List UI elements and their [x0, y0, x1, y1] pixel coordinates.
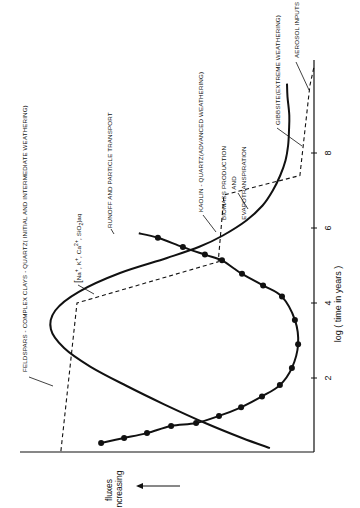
annotation-biomass-line2: AND — [230, 176, 237, 190]
flux-direction-arrow-icon — [136, 483, 143, 489]
data-point-runoff-and-particle-transport — [279, 294, 285, 300]
flux-axis-title: fluxes increasing — [104, 470, 180, 508]
annotation-solutes-close: ]aq — [75, 213, 82, 222]
data-point-runoff-and-particle-transport — [219, 257, 225, 263]
data-point-runoff-and-particle-transport — [289, 365, 295, 371]
annotation-solutes: [Na+, K+, Ca2+, SiO2]aq — [73, 213, 84, 283]
annotations: FELDSPARS - COMPLEX CLAYS - QUARTZ( INIT… — [21, 2, 309, 386]
data-point-runoff-and-particle-transport — [121, 435, 127, 441]
data-point-runoff-and-particle-transport — [239, 271, 245, 277]
data-point-runoff-and-particle-transport — [292, 317, 298, 323]
axes — [20, 60, 314, 452]
annotation-solutes-sio: SiO — [75, 225, 82, 236]
data-point-runoff-and-particle-transport — [277, 382, 283, 388]
data-point-runoff-and-particle-transport — [238, 404, 244, 410]
annotation-aerosol-arrow — [296, 62, 309, 90]
data-point-runoff-and-particle-transport — [216, 413, 222, 419]
time-tick-label-8: 8 — [323, 150, 333, 155]
annotation-runoff: RUNOFF AND PARTICLE TRANSPORT — [106, 112, 113, 228]
data-point-runoff-and-particle-transport — [259, 393, 265, 399]
data-point-runoff-and-particle-transport — [155, 235, 161, 241]
annotation-solutes-arrow — [78, 285, 94, 294]
annotation-kaolin: KAOLIN - QUARTZ(ADVANCED WEATHERING) — [197, 72, 204, 212]
data-point-runoff-and-particle-transport — [144, 430, 150, 436]
annotation-runoff-arrow — [111, 229, 114, 234]
annotation-biomass-line1: BIOMASS PRODUCTION — [220, 146, 227, 220]
flux-axis-title-line1: fluxes — [104, 479, 114, 501]
data-point-runoff-and-particle-transport — [260, 282, 266, 288]
flux-axis-title-line2: increasing — [114, 470, 124, 508]
series-line-na-k-ca2-sio2-aq — [50, 84, 289, 449]
series-line-runoff-and-particle-transport — [101, 233, 298, 443]
annotation-feldspars-arrow — [29, 377, 53, 386]
weathering-flux-chart: 2468 log ( time in years ) fluxes increa… — [0, 0, 360, 508]
annotation-biomass-line3: EVAPOTRANSPIRATION — [240, 146, 247, 219]
data-point-runoff-and-particle-transport — [295, 341, 301, 347]
data-point-runoff-and-particle-transport — [168, 423, 174, 429]
annotation-gibbsite: GIBBSITE(EXTREME WEATHERING) — [274, 15, 281, 125]
data-point-runoff-and-particle-transport — [202, 252, 208, 258]
annotation-kaolin-arrow — [203, 215, 216, 232]
time-tick-label-6: 6 — [323, 225, 333, 230]
data-point-runoff-and-particle-transport — [98, 440, 104, 446]
time-tick-label-4: 4 — [323, 300, 333, 305]
time-tick-label-2: 2 — [323, 375, 333, 380]
annotation-feldspars: FELDSPARS - COMPLEX CLAYS - QUARTZ( INIT… — [21, 105, 28, 372]
data-point-runoff-and-particle-transport — [180, 244, 186, 250]
annotation-aerosol: AEROSOL INPUTS — [293, 2, 300, 58]
time-axis-title: log ( time in years ) — [333, 266, 343, 343]
